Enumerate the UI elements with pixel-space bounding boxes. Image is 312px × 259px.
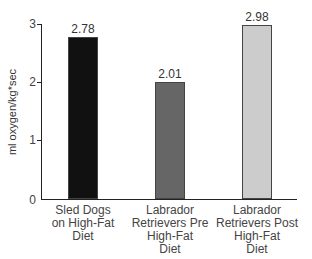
y-axis [41,24,42,200]
y-tick-label-0: 0 [22,194,36,206]
bar-value-label: 2.01 [150,67,190,81]
x-category-label: Sled Dogson High-FatDiet [38,204,128,243]
y-axis-label: ml oxygen/kg*sec [6,69,18,155]
bar-1 [68,37,98,199]
bar-value-label: 2.78 [63,22,103,36]
x-category-label-line: Diet [125,243,215,256]
x-category-label-line: Diet [38,230,128,243]
y-tick-label-1: 1 [22,134,36,146]
x-category-label-line: Diet [212,243,302,256]
y-tick-label-2: 2 [22,76,36,88]
bar-2 [155,82,185,199]
x-category-label: LabradorRetrievers PreHigh-FatDiet [125,204,215,256]
y-tick-3 [37,24,41,25]
y-tick-2 [37,82,41,83]
y-tick-label-3: 3 [22,18,36,30]
y-tick-1 [37,140,41,141]
x-axis [41,199,297,200]
bar-value-label: 2.98 [237,10,277,24]
bar-3 [242,25,272,199]
bar-chart: ml oxygen/kg*sec 3 2 1 0 2.78Sled Dogson… [0,0,312,259]
x-category-label: LabradorRetrievers PostHigh-FatDiet [212,204,302,256]
